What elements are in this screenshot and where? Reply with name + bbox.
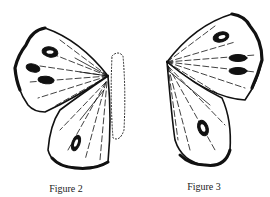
wing-spot [229, 55, 247, 62]
figure-2-caption: Figure 2 [49, 183, 83, 194]
figure-3-caption: Figure 3 [187, 181, 221, 192]
figure-3-illustration [0, 0, 270, 197]
butterfly-wing-right-drawing [167, 14, 262, 165]
wing-spot [229, 68, 247, 75]
